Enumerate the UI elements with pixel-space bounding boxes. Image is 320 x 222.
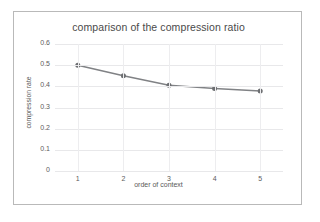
y-tick-label: 0 — [16, 166, 50, 173]
y-tick-label: 0.3 — [16, 103, 50, 110]
gridline-vertical — [78, 44, 79, 171]
plot-area: 00.10.20.30.40.50.612345 — [55, 44, 283, 171]
gridline-vertical — [169, 44, 170, 171]
y-tick-label: 0.6 — [16, 39, 50, 46]
x-tick-label: 4 — [203, 175, 227, 182]
gridline-vertical — [260, 44, 261, 171]
chart-figure: comparison of the compression ratio comp… — [14, 12, 303, 206]
page-border: comparison of the compression ratio comp… — [13, 11, 302, 205]
x-tick-label: 5 — [248, 175, 272, 182]
y-tick-label: 0.1 — [16, 145, 50, 152]
y-tick-label: 0.2 — [16, 124, 50, 131]
gridline-vertical — [123, 44, 124, 171]
x-axis-title: order of context — [14, 181, 303, 188]
x-tick-label: 2 — [111, 175, 135, 182]
x-tick-label: 1 — [66, 175, 90, 182]
x-tick-label: 3 — [157, 175, 181, 182]
gridline-horizontal — [55, 171, 283, 172]
y-tick-label: 0.4 — [16, 81, 50, 88]
gridline-vertical — [215, 44, 216, 171]
y-tick-label: 0.5 — [16, 60, 50, 67]
chart-title: comparison of the compression ratio — [14, 21, 303, 33]
